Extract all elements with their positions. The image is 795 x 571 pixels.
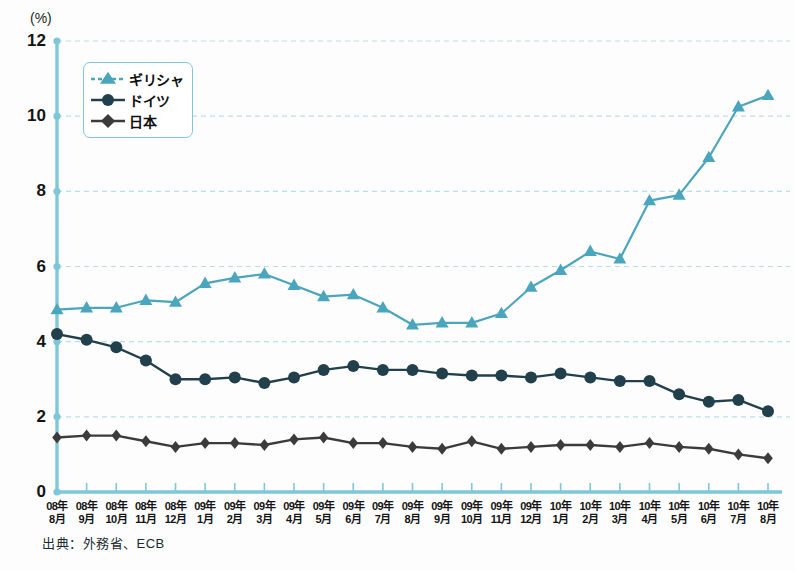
diamond-marker-icon: [704, 443, 714, 455]
circle-marker-icon: [199, 373, 211, 385]
circle-marker-icon: [258, 377, 270, 389]
circle-marker-icon: [644, 375, 656, 387]
triangle-marker-icon: [258, 267, 271, 278]
circle-marker-icon: [229, 371, 241, 383]
diamond-marker-icon: [289, 433, 299, 445]
legend-sample-germany: [91, 92, 125, 108]
legend-sample-greece: [91, 71, 125, 87]
triangle-marker-icon: [554, 263, 567, 275]
y-axis-tick: [53, 188, 60, 195]
circle-marker-icon: [377, 364, 389, 376]
diamond-marker-icon: [112, 430, 122, 442]
circle-marker-icon: [584, 371, 596, 383]
triangle-marker-icon: [139, 294, 152, 305]
diamond-marker-icon: [615, 441, 625, 453]
y-axis-tick: [53, 263, 60, 270]
circle-marker-icon: [407, 364, 419, 376]
diamond-marker-icon: [141, 435, 151, 447]
circle-marker-icon: [762, 405, 774, 417]
legend-label-greece: ギリシャ: [129, 69, 184, 89]
circle-marker-icon: [288, 371, 300, 383]
diamond-marker-icon: [556, 439, 566, 451]
source-note: 出典：外務省、ECB: [42, 533, 165, 552]
circle-marker-icon: [51, 328, 63, 340]
circle-marker-icon: [102, 94, 114, 106]
triangle-marker-icon: [584, 245, 597, 257]
y-axis-tick: [53, 413, 60, 420]
circle-marker-icon: [347, 360, 359, 372]
diamond-marker-icon: [674, 441, 684, 453]
triangle-marker-icon: [100, 71, 116, 83]
circle-marker-icon: [466, 370, 478, 382]
diamond-marker-icon: [645, 437, 655, 449]
circle-marker-icon: [110, 341, 122, 353]
circle-marker-icon: [81, 334, 93, 346]
diamond-marker-icon: [437, 443, 447, 455]
diamond-marker-icon: [319, 432, 329, 444]
y-axis-tick: [53, 113, 60, 120]
diamond-marker-icon: [526, 441, 536, 453]
triangle-marker-icon: [525, 280, 538, 291]
legend-label-japan: 日本: [129, 111, 156, 131]
diamond-marker-icon: [171, 441, 181, 453]
triangle-marker-icon: [702, 151, 715, 162]
chart-legend: ギリシャ ドイツ 日本: [83, 62, 193, 138]
circle-marker-icon: [703, 396, 715, 408]
legend-item-germany: ドイツ: [91, 89, 186, 110]
circle-marker-icon: [732, 394, 744, 406]
triangle-marker-icon: [347, 288, 360, 299]
legend-item-greece: ギリシャ: [91, 68, 186, 89]
circle-marker-icon: [436, 368, 448, 380]
y-axis-tick: [53, 37, 60, 44]
circle-marker-icon: [495, 370, 507, 382]
diamond-marker-icon: [408, 441, 418, 453]
circle-marker-icon: [555, 368, 567, 380]
diamond-marker-icon: [497, 443, 507, 455]
circle-marker-icon: [673, 388, 685, 400]
diamond-marker-icon: [467, 435, 477, 447]
chart-figure: (%) 121086420 08年8月08年9月08年10月08年11月08年1…: [0, 0, 795, 571]
diamond-marker-icon: [260, 439, 270, 451]
circle-marker-icon: [614, 375, 626, 387]
diamond-marker-icon: [378, 437, 388, 449]
circle-marker-icon: [525, 371, 537, 383]
triangle-marker-icon: [762, 89, 775, 100]
legend-sample-japan: [91, 113, 125, 129]
diamond-marker-icon: [763, 452, 773, 464]
diamond-marker-icon: [348, 437, 358, 449]
circle-marker-icon: [170, 373, 182, 385]
legend-item-japan: 日本: [91, 110, 186, 131]
diamond-marker-icon: [230, 437, 240, 449]
circle-marker-icon: [318, 364, 330, 376]
circle-marker-icon: [140, 355, 152, 367]
diamond-marker-icon: [734, 448, 744, 460]
diamond-marker-icon: [52, 432, 62, 444]
diamond-marker-icon: [586, 439, 596, 451]
diamond-marker-icon: [82, 430, 92, 442]
diamond-marker-icon: [200, 437, 210, 449]
legend-label-germany: ドイツ: [129, 90, 170, 110]
